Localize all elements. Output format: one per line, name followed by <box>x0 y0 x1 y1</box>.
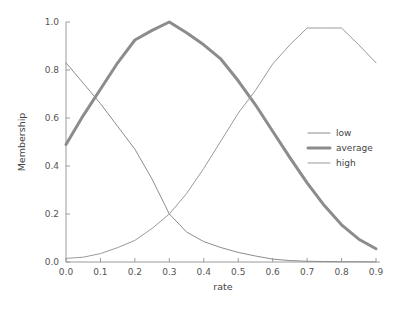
chart-figure: 0.00.10.20.30.40.50.60.70.80.9 0.00.20.4… <box>0 0 406 312</box>
x-tick-label: 0.3 <box>162 267 176 277</box>
x-axis-label: rate <box>213 281 232 292</box>
y-tick-label: 0.8 <box>45 65 60 75</box>
membership-plot: 0.00.10.20.30.40.50.60.70.80.9 0.00.20.4… <box>0 0 406 312</box>
x-tick-label: 0.5 <box>231 267 245 277</box>
y-axis-label: Membership <box>16 113 27 172</box>
x-tick-label: 0.2 <box>128 267 142 277</box>
y-tick-label: 1.0 <box>45 17 60 27</box>
legend-label-low: low <box>336 128 351 138</box>
y-tick-label: 0.2 <box>45 209 59 219</box>
x-tick-label: 0.7 <box>300 267 314 277</box>
x-tick-label: 0.0 <box>59 267 74 277</box>
x-tick-label: 0.6 <box>266 267 281 277</box>
x-tick-label: 0.9 <box>369 267 384 277</box>
legend-label-high: high <box>336 158 356 168</box>
figure-background <box>0 0 406 312</box>
y-tick-label: 0.0 <box>45 257 60 267</box>
x-tick-label: 0.8 <box>334 267 349 277</box>
x-tick-label: 0.1 <box>93 267 107 277</box>
legend-label-average: average <box>336 143 373 153</box>
y-tick-label: 0.4 <box>45 161 60 171</box>
y-tick-label: 0.6 <box>45 113 60 123</box>
x-tick-label: 0.4 <box>197 267 212 277</box>
